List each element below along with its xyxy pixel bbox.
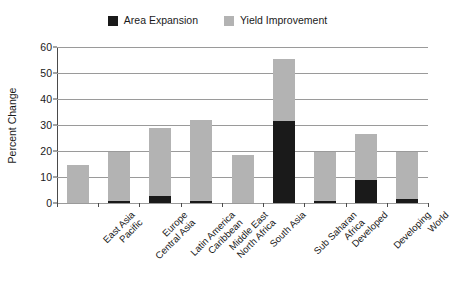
bar-stack[interactable]	[273, 59, 295, 203]
bar-group[interactable]	[314, 47, 336, 203]
bar-segment-area-expansion[interactable]	[190, 201, 212, 203]
y-tick-label-50: 50	[40, 68, 52, 79]
bar-group[interactable]	[67, 47, 89, 203]
legend-entry-area-expansion: Area Expansion	[108, 15, 198, 26]
y-tick-label-40: 40	[40, 94, 52, 105]
x-axis-label: World	[426, 209, 451, 234]
bar-stack[interactable]	[190, 120, 212, 203]
bar-stack[interactable]	[67, 165, 89, 203]
y-tick-label-20: 20	[40, 146, 52, 157]
x-axis-label: Developed	[349, 209, 389, 249]
x-axis-label-line1: Latin America	[188, 209, 237, 258]
x-axis-label: Sub SaharanAfrica	[311, 209, 366, 264]
x-axis-label-line2: Caribbean	[196, 217, 245, 266]
y-axis-title-text: Percent Change	[8, 87, 19, 163]
legend-swatch-area-expansion	[108, 16, 118, 26]
y-tick-label-30: 30	[40, 120, 52, 131]
y-axis-title: Percent Change	[6, 47, 20, 203]
x-axis-label-line1: Developed	[349, 209, 389, 249]
y-tick-label-0: 0	[46, 198, 52, 209]
bar-segment-yield-improvement[interactable]	[396, 152, 418, 200]
bar-stack[interactable]	[108, 152, 130, 203]
bar-group[interactable]	[355, 47, 377, 203]
x-axis-label: Developing	[391, 209, 433, 251]
bar-segment-area-expansion[interactable]	[314, 201, 336, 203]
bar-group[interactable]	[149, 47, 171, 203]
x-axis-label-line1: East Asia	[100, 209, 136, 245]
bar-segment-yield-improvement[interactable]	[67, 165, 89, 203]
bar-group[interactable]	[190, 47, 212, 203]
x-axis-label: East AsiaPacific	[100, 209, 144, 253]
legend-entry-yield-improvement: Yield Improvement	[224, 15, 327, 26]
x-axis-label-line2: North Africa	[235, 217, 278, 260]
x-axis-label-line1: South Asia	[267, 209, 307, 249]
bar-segment-area-expansion[interactable]	[396, 199, 418, 203]
x-axis-label: South Asia	[267, 209, 307, 249]
bar-group[interactable]	[273, 47, 295, 203]
bar-stack[interactable]	[149, 128, 171, 203]
x-axis-label-line1: Middle East	[227, 209, 270, 252]
bar-segment-yield-improvement[interactable]	[273, 59, 295, 121]
bar-stack[interactable]	[232, 155, 254, 203]
bar-stack[interactable]	[396, 152, 418, 203]
x-axis-label: Latin AmericaCaribbean	[188, 209, 245, 266]
bar-segment-area-expansion[interactable]	[149, 196, 171, 203]
bar-segment-yield-improvement[interactable]	[232, 155, 254, 203]
x-axis-label: EuropeCentral Asia	[145, 209, 197, 261]
x-axis-label-line2: Pacific	[108, 217, 144, 253]
legend-swatch-yield-improvement	[224, 16, 234, 26]
bar-segment-area-expansion[interactable]	[108, 201, 130, 203]
bar-segment-area-expansion[interactable]	[355, 180, 377, 203]
x-axis-label-line2: Central Asia	[153, 217, 197, 261]
x-axis-label-line1: World	[426, 209, 451, 234]
bar-group[interactable]	[396, 47, 418, 203]
legend-label-area-expansion: Area Expansion	[124, 15, 198, 26]
plot-area: 6050403020100	[57, 47, 428, 203]
x-axis-label-line1: Developing	[391, 209, 433, 251]
bar-series-container	[57, 47, 428, 203]
chart-legend: Area Expansion Yield Improvement	[0, 15, 435, 26]
gridline-0	[57, 203, 428, 204]
bar-segment-yield-improvement[interactable]	[314, 152, 336, 202]
legend-label-yield-improvement: Yield Improvement	[240, 15, 327, 26]
bar-segment-area-expansion[interactable]	[273, 121, 295, 203]
bar-group[interactable]	[108, 47, 130, 203]
x-axis-label-line1: Europe	[160, 209, 190, 239]
x-axis-label-line1: Sub Saharan	[311, 209, 358, 256]
bar-stack[interactable]	[355, 134, 377, 203]
bar-stack[interactable]	[314, 152, 336, 203]
bar-segment-yield-improvement[interactable]	[190, 120, 212, 200]
bar-segment-yield-improvement[interactable]	[108, 152, 130, 201]
y-tick-label-10: 10	[40, 172, 52, 183]
bar-segment-yield-improvement[interactable]	[149, 128, 171, 195]
y-tick-label-60: 60	[40, 42, 52, 53]
x-axis-label: Middle EastNorth Africa	[227, 209, 278, 260]
bar-group[interactable]	[232, 47, 254, 203]
bar-segment-yield-improvement[interactable]	[355, 134, 377, 180]
x-axis-label-line2: Africa	[319, 217, 366, 264]
